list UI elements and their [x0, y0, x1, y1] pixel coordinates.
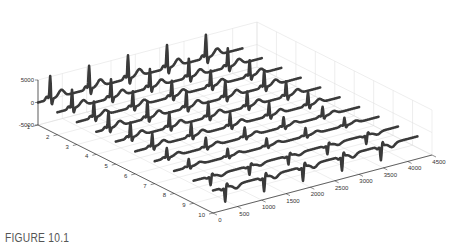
x-tick-label: 4500	[432, 159, 446, 165]
grid-line	[257, 22, 432, 110]
y-tick	[190, 203, 194, 204]
y-tick-label: 9	[182, 202, 186, 208]
x-tick	[262, 200, 266, 202]
x-tick-label: 4000	[408, 165, 422, 171]
trace-6	[135, 92, 339, 151]
y-tick-label: 5	[104, 163, 108, 169]
x-tick	[432, 155, 436, 157]
y-tick	[131, 174, 135, 175]
x-tick	[310, 187, 314, 189]
x-tick	[286, 194, 290, 196]
y-tick-label: 8	[163, 192, 167, 198]
x-tick-label: 2500	[335, 185, 349, 191]
x-tick-label: 0	[218, 217, 222, 223]
y-tick	[53, 135, 57, 136]
y-tick-label: 2	[46, 134, 50, 140]
y-tick-label: 3	[66, 144, 70, 150]
waterfall-plot: 0500100015002000250030003500400045001234…	[0, 0, 463, 250]
x-tick	[383, 168, 387, 170]
x-tick	[213, 213, 217, 215]
y-tick	[170, 193, 174, 194]
x-tick-label: 3500	[384, 172, 398, 178]
y-tick-label: 6	[124, 173, 128, 179]
z-tick-label: -5000	[19, 122, 35, 128]
figure-caption: FIGURE 10.1	[5, 231, 69, 245]
x-tick	[237, 207, 241, 209]
y-tick-label: 7	[143, 183, 147, 189]
x-tick	[408, 161, 412, 163]
y-tick	[209, 213, 213, 214]
y-tick	[92, 154, 96, 155]
y-tick	[73, 145, 77, 146]
x-tick-label: 1000	[262, 204, 276, 210]
z-tick-label: 0	[31, 100, 35, 106]
x-tick	[335, 181, 339, 183]
y-tick	[151, 184, 155, 185]
y-tick-label: 10	[198, 212, 205, 218]
y-tick-label: 4	[85, 153, 89, 159]
x-tick-label: 500	[239, 211, 250, 217]
y-tick	[112, 164, 116, 165]
x-tick-label: 2000	[311, 191, 325, 197]
x-tick-label: 3000	[359, 178, 373, 184]
x-axis	[213, 155, 432, 213]
signal-traces	[38, 35, 417, 202]
x-tick-label: 1500	[286, 198, 300, 204]
grid-line	[38, 22, 257, 80]
z-tick-label: 5000	[21, 77, 35, 83]
x-tick	[359, 174, 363, 176]
